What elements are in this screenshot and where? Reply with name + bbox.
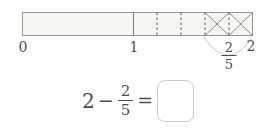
minus-operator: − bbox=[98, 91, 114, 110]
brace-fraction-denominator: 5 bbox=[225, 57, 233, 72]
label-two: 2 bbox=[247, 38, 256, 54]
subtrahend-fraction: 2 5 bbox=[118, 83, 134, 119]
answer-box[interactable] bbox=[157, 80, 194, 122]
minuend: 2 bbox=[82, 91, 95, 111]
fraction-bar bbox=[23, 13, 253, 36]
label-zero: 0 bbox=[19, 39, 28, 55]
subtrahend-numerator: 2 bbox=[118, 83, 134, 102]
subtrahend-denominator: 5 bbox=[118, 101, 134, 119]
brace-fraction-label: 2 5 bbox=[222, 40, 237, 72]
brace-fraction-numerator: 2 bbox=[225, 40, 233, 55]
label-one: 1 bbox=[130, 39, 139, 55]
fraction-bar-diagram: 0 1 2 2 5 bbox=[0, 0, 268, 76]
equals-sign: = bbox=[137, 91, 153, 110]
equation: 2 − 2 5 = bbox=[82, 78, 194, 123]
exercise-panel: 0 1 2 2 5 2 − 2 5 = bbox=[0, 0, 268, 131]
